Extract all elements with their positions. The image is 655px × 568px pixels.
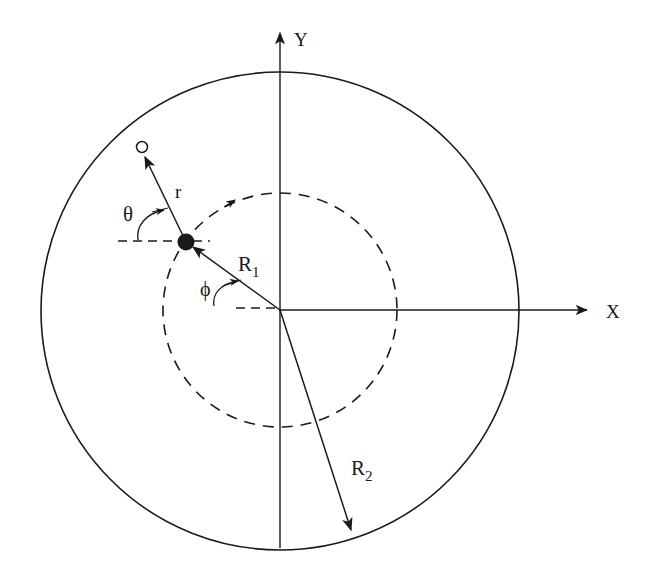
R2-vector [280, 310, 351, 530]
R1-label: R1 [238, 252, 260, 280]
phi-angle-arc-double [226, 280, 241, 285]
phi-angle-arc [214, 281, 238, 306]
theta-label: θ [123, 202, 133, 226]
x-axis-label: X [606, 301, 620, 322]
y-axis-label: Y [294, 29, 308, 50]
polar-diagram: Y X θ ϕ r R1 R2 [0, 0, 655, 568]
particle-marker [178, 234, 195, 251]
phi-label: ϕ [200, 278, 211, 301]
R2-label: R2 [351, 456, 373, 484]
open-point-marker [137, 142, 148, 153]
theta-angle-arc [138, 210, 164, 240]
r-label: r [175, 181, 182, 202]
